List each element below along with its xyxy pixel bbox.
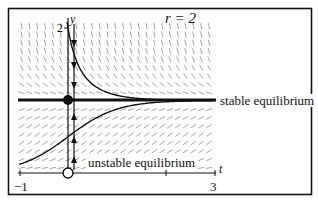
stable-equilibrium-point — [63, 95, 73, 105]
t-axis-label: t — [219, 163, 222, 175]
unstable-equilibrium-label: unstable equilibrium — [86, 156, 197, 169]
y-tick-label-2: 2 — [57, 22, 63, 34]
y-axis-label: y — [70, 13, 75, 25]
t-tick-label-left: −1 — [14, 180, 28, 193]
stable-equilibrium-label: stable equilibrium — [220, 94, 314, 107]
unstable-equilibrium-point — [63, 168, 73, 178]
t-tick-label-right: 3 — [210, 180, 217, 193]
parameter-label: r = 2 — [165, 11, 196, 26]
